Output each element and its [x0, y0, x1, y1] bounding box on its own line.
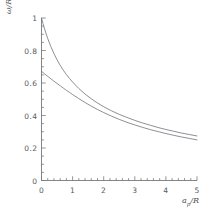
y-tick-label: 0.4 [24, 111, 37, 120]
y-tick-label: 0.8 [24, 46, 37, 55]
x-axis-label-denominator: /R [190, 196, 199, 205]
x-tick-label: 1 [70, 186, 75, 195]
y-tick-label: 0.2 [24, 144, 37, 153]
x-tick-label: 4 [163, 186, 168, 195]
y-tick-label: 0.6 [24, 79, 37, 88]
x-tick-label: 5 [194, 186, 199, 195]
y-tick-label: 0 [32, 176, 37, 185]
x-tick-label: 0 [39, 186, 44, 195]
axis-lines [42, 18, 198, 181]
y-axis-label: ω/R [4, 0, 13, 14]
y-axis-label-symbol: ω [4, 7, 13, 14]
x-axis-label: ap/R [182, 196, 199, 207]
y-tick-label: 1 [32, 14, 37, 23]
x-tick-label: 2 [101, 186, 106, 195]
x-tick-label: 3 [132, 186, 137, 195]
figure-container: ω/R ap/R 012345 00.20.40.60.81 [0, 0, 215, 215]
data-curves [42, 18, 198, 140]
tick-marks [42, 18, 198, 181]
y-axis-label-denominator: /R [4, 0, 13, 7]
